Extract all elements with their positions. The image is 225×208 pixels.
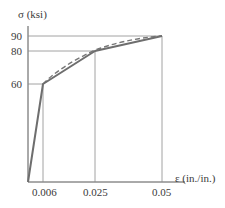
x-tick-0.006: 0.006: [32, 186, 57, 198]
x-tick-0.05: 0.05: [152, 186, 172, 198]
x-axis-label: ε (in./in.): [175, 172, 216, 185]
y-tick-80: 80: [11, 45, 23, 57]
x-tick-0.025: 0.025: [83, 186, 108, 198]
y-tick-90: 90: [11, 30, 23, 42]
stress-strain-chart: σ (ksi) 90 80 60 0.006 0.025 0.05 ε (in.…: [0, 0, 225, 208]
actual-curve-dashed: [43, 36, 162, 84]
y-axis-label: σ (ksi): [18, 8, 47, 21]
y-tick-60: 60: [11, 78, 23, 90]
